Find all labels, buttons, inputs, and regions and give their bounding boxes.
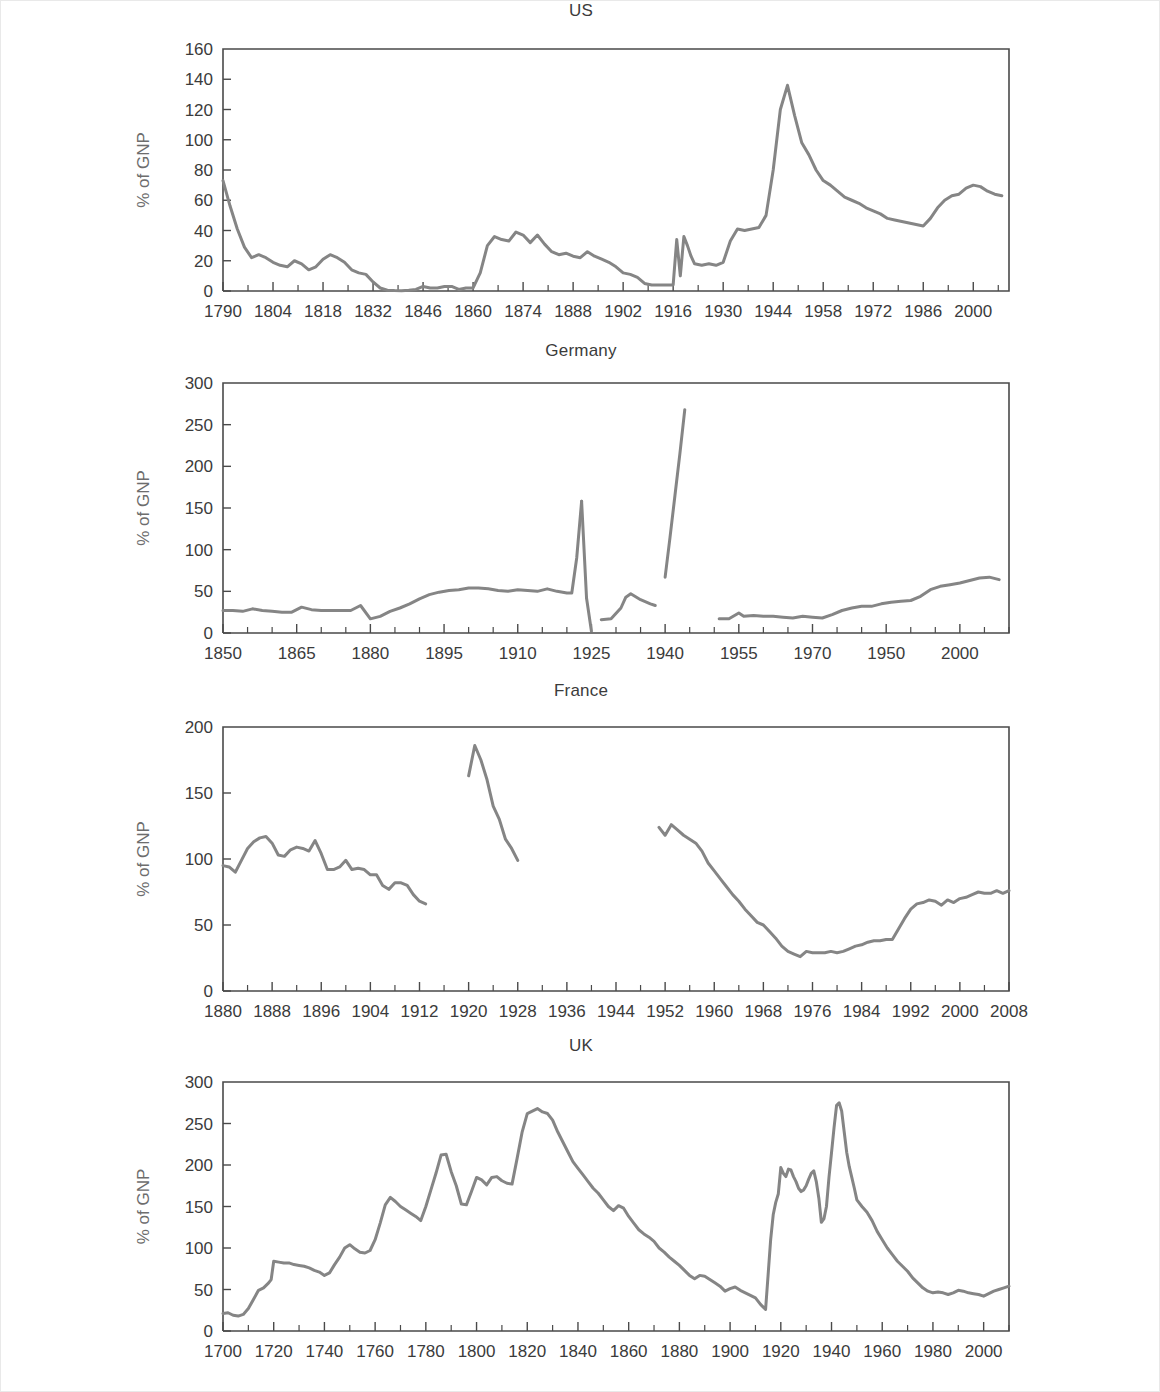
chart-germany: 0501001502002503001850186518801895191019…	[1, 361, 1160, 681]
x-tick-label: 1958	[804, 302, 842, 321]
y-tick-label: 250	[185, 1115, 213, 1134]
y-tick-label: 80	[194, 161, 213, 180]
panel-france: France 050100150200188018881896190419121…	[1, 681, 1160, 1036]
panel-us: US 0204060801001201401601790180418181832…	[1, 1, 1160, 341]
x-tick-label: 1895	[425, 644, 463, 663]
y-tick-label: 200	[185, 1156, 213, 1175]
x-tick-label: 1888	[253, 1002, 291, 1021]
series-line	[719, 577, 999, 619]
x-tick-label: 1888	[554, 302, 592, 321]
x-tick-label: 1960	[695, 1002, 733, 1021]
x-tick-label: 1846	[404, 302, 442, 321]
y-tick-label: 0	[204, 624, 213, 643]
x-tick-label: 1760	[356, 1342, 394, 1361]
x-tick-label: 1925	[573, 644, 611, 663]
x-tick-label: 2008	[990, 1002, 1028, 1021]
x-tick-label: 1850	[204, 644, 242, 663]
x-tick-label: 1904	[351, 1002, 389, 1021]
x-tick-label: 1700	[204, 1342, 242, 1361]
x-tick-label: 1720	[255, 1342, 293, 1361]
x-tick-label: 1950	[867, 644, 905, 663]
y-axis-label: % of GNP	[134, 470, 153, 546]
chart-us: 0204060801001201401601790180418181832184…	[1, 21, 1160, 341]
series-line	[223, 1103, 1009, 1316]
y-tick-label: 200	[185, 457, 213, 476]
series-line	[223, 837, 426, 904]
y-tick-label: 50	[194, 1281, 213, 1300]
series-line	[469, 745, 518, 860]
x-tick-label: 1800	[458, 1342, 496, 1361]
panel-uk: UK 0501001502002503001700172017401760178…	[1, 1036, 1160, 1386]
x-tick-label: 1912	[401, 1002, 439, 1021]
y-tick-label: 200	[185, 718, 213, 737]
x-tick-label: 2000	[941, 644, 979, 663]
x-tick-label: 1972	[854, 302, 892, 321]
y-tick-label: 140	[185, 70, 213, 89]
y-tick-label: 60	[194, 191, 213, 210]
y-tick-label: 300	[185, 1073, 213, 1092]
y-tick-label: 0	[204, 982, 213, 1001]
x-tick-label: 1880	[204, 1002, 242, 1021]
x-tick-label: 1832	[354, 302, 392, 321]
panel-title-france: France	[1, 681, 1160, 701]
chart-uk: 0501001502002503001700172017401760178018…	[1, 1056, 1160, 1386]
x-tick-label: 1920	[450, 1002, 488, 1021]
x-tick-label: 1984	[843, 1002, 881, 1021]
y-tick-label: 250	[185, 416, 213, 435]
x-tick-label: 1930	[704, 302, 742, 321]
x-tick-label: 1936	[548, 1002, 586, 1021]
y-axis-label: % of GNP	[134, 1169, 153, 1245]
plot-frame	[223, 383, 1009, 633]
x-tick-label: 1976	[794, 1002, 832, 1021]
x-tick-label: 1944	[754, 302, 792, 321]
y-tick-label: 100	[185, 850, 213, 869]
series-line	[665, 410, 685, 578]
chart-france: 0501001502001880188818961904191219201928…	[1, 701, 1160, 1036]
y-tick-label: 50	[194, 582, 213, 601]
plot-frame	[223, 49, 1009, 291]
x-tick-label: 1952	[646, 1002, 684, 1021]
figure-page: US 0204060801001201401601790180418181832…	[0, 0, 1160, 1392]
x-tick-label: 1955	[720, 644, 758, 663]
y-tick-label: 160	[185, 40, 213, 59]
series-line	[601, 594, 655, 620]
y-tick-label: 20	[194, 252, 213, 271]
series-line	[223, 501, 582, 618]
x-tick-label: 1970	[794, 644, 832, 663]
x-tick-label: 1960	[863, 1342, 901, 1361]
x-tick-label: 1865	[278, 644, 316, 663]
series-line	[223, 85, 1002, 290]
y-tick-label: 150	[185, 499, 213, 518]
x-tick-label: 1874	[504, 302, 542, 321]
y-tick-label: 0	[204, 1322, 213, 1341]
x-tick-label: 2000	[954, 302, 992, 321]
x-tick-label: 1790	[204, 302, 242, 321]
x-tick-label: 1940	[813, 1342, 851, 1361]
x-tick-label: 1928	[499, 1002, 537, 1021]
x-tick-label: 1896	[302, 1002, 340, 1021]
y-tick-label: 100	[185, 541, 213, 560]
x-tick-label: 1902	[604, 302, 642, 321]
x-tick-label: 1992	[892, 1002, 930, 1021]
y-tick-label: 100	[185, 131, 213, 150]
y-tick-label: 100	[185, 1239, 213, 1258]
y-tick-label: 150	[185, 784, 213, 803]
panel-title-germany: Germany	[1, 341, 1160, 361]
x-tick-label: 1910	[499, 644, 537, 663]
x-tick-label: 1820	[508, 1342, 546, 1361]
x-tick-label: 1900	[711, 1342, 749, 1361]
panel-title-us: US	[1, 1, 1160, 21]
y-tick-label: 300	[185, 374, 213, 393]
x-tick-label: 2000	[965, 1342, 1003, 1361]
x-tick-label: 1860	[454, 302, 492, 321]
y-tick-label: 50	[194, 916, 213, 935]
x-tick-label: 1880	[351, 644, 389, 663]
x-tick-label: 1880	[660, 1342, 698, 1361]
y-tick-label: 40	[194, 222, 213, 241]
x-tick-label: 2000	[941, 1002, 979, 1021]
x-tick-label: 1840	[559, 1342, 597, 1361]
y-tick-label: 120	[185, 101, 213, 120]
series-line	[582, 501, 587, 598]
x-tick-label: 1968	[744, 1002, 782, 1021]
x-tick-label: 1940	[646, 644, 684, 663]
